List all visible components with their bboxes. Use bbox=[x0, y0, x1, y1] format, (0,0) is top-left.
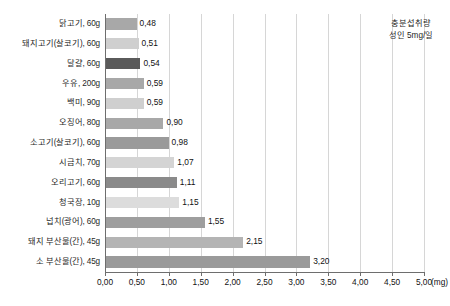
category-label: 소 부산물(간), 45g bbox=[0, 252, 100, 272]
bar-row: 청국장, 10g1,15 bbox=[0, 193, 450, 213]
category-label: 달걀, 60g bbox=[0, 54, 100, 74]
category-label: 돼지고기(살코기), 60g bbox=[0, 34, 100, 54]
bar-row: 소고기(살코기), 60g0,98 bbox=[0, 133, 450, 153]
bar bbox=[106, 137, 169, 148]
bar-value-label: 1,07 bbox=[177, 153, 193, 173]
bar-value-label: 3,20 bbox=[313, 252, 329, 272]
bar-value-label: 0,90 bbox=[166, 113, 182, 133]
bar-row: 오징어, 80g0,90 bbox=[0, 113, 450, 133]
bar-chart: 닭고기, 60g0,48돼지고기(살코기), 60g0,51달걀, 60g0,5… bbox=[0, 0, 450, 306]
bar-row: 소 부산물(간), 45g3,20 bbox=[0, 252, 450, 272]
bar-value-label: 1,11 bbox=[180, 173, 196, 193]
category-label: 돼지 부산물(간), 45g bbox=[0, 232, 100, 252]
bar-rows: 닭고기, 60g0,48돼지고기(살코기), 60g0,51달걀, 60g0,5… bbox=[0, 14, 450, 272]
bar-value-label: 0,59 bbox=[147, 74, 163, 94]
bar-value-label: 0,51 bbox=[142, 34, 158, 54]
bar bbox=[106, 18, 137, 29]
bar-row: 오리고기, 60g1,11 bbox=[0, 173, 450, 193]
bar bbox=[106, 78, 144, 89]
bar-value-label: 0,48 bbox=[140, 14, 156, 34]
bar-row: 넙치(광어), 60g1,55 bbox=[0, 212, 450, 232]
bar-value-label: 0,98 bbox=[172, 133, 188, 153]
category-label: 오리고기, 60g bbox=[0, 173, 100, 193]
bar bbox=[106, 58, 140, 69]
bar-value-label: 1,55 bbox=[208, 212, 224, 232]
bar bbox=[106, 157, 174, 168]
annotation-line-1: 충분섭취량 bbox=[376, 18, 446, 30]
bar bbox=[106, 217, 205, 228]
bar bbox=[106, 177, 177, 188]
bar bbox=[106, 237, 243, 248]
bar bbox=[106, 38, 139, 49]
category-label: 우유, 200g bbox=[0, 74, 100, 94]
adequate-intake-annotation: 충분섭취량 성인 5mg/일 bbox=[376, 18, 446, 41]
bar-value-label: 0,54 bbox=[143, 54, 159, 74]
bar-row: 돼지 부산물(간), 45g2,15 bbox=[0, 232, 450, 252]
category-label: 오징어, 80g bbox=[0, 113, 100, 133]
bar bbox=[106, 256, 310, 267]
bar-value-label: 2,15 bbox=[246, 232, 262, 252]
bar bbox=[106, 98, 144, 109]
category-label: 백미, 90g bbox=[0, 93, 100, 113]
bar-row: 우유, 200g0,59 bbox=[0, 74, 450, 94]
category-label: 넙치(광어), 60g bbox=[0, 212, 100, 232]
category-label: 닭고기, 60g bbox=[0, 14, 100, 34]
category-label: 청국장, 10g bbox=[0, 193, 100, 213]
bar-value-label: 0,59 bbox=[147, 93, 163, 113]
bar bbox=[106, 118, 163, 129]
x-axis-tick-labels: 0,000,501,001,502,002,503,003,504,004,50… bbox=[0, 276, 450, 292]
bar-value-label: 1,15 bbox=[182, 193, 198, 213]
bar-row: 달걀, 60g0,54 bbox=[0, 54, 450, 74]
x-axis-line bbox=[105, 272, 425, 273]
annotation-line-2: 성인 5mg/일 bbox=[376, 30, 446, 42]
category-label: 소고기(살코기), 60g bbox=[0, 133, 100, 153]
x-axis-unit-label: (mg) bbox=[431, 276, 448, 289]
bar bbox=[106, 197, 179, 208]
bar-row: 백미, 90g0,59 bbox=[0, 93, 450, 113]
bar-row: 시금치, 70g1,07 bbox=[0, 153, 450, 173]
category-label: 시금치, 70g bbox=[0, 153, 100, 173]
